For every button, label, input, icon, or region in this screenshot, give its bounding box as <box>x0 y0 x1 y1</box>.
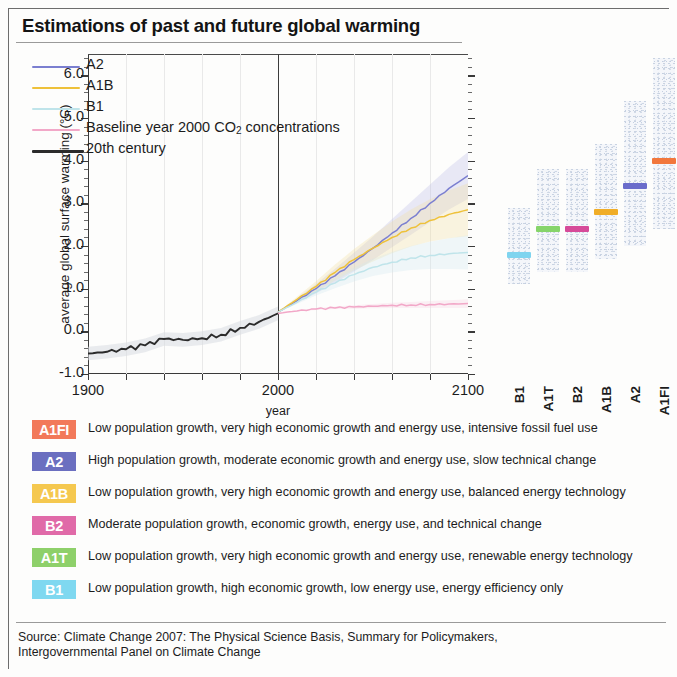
x-axis-title: year <box>266 404 290 418</box>
right-tick-minor <box>468 169 472 170</box>
scenario-bar: A1T <box>537 54 559 374</box>
scenario-badge: A1FI <box>32 420 76 439</box>
right-tick-minor <box>468 306 472 307</box>
scenario-description: Low population growth, very high economi… <box>88 549 633 563</box>
right-tick-minor <box>468 101 472 102</box>
y-tick-label: -1.0 <box>38 364 84 380</box>
scenario-description: Low population growth, very high economi… <box>88 485 626 499</box>
x-tick <box>278 374 279 380</box>
scenario-range <box>508 208 530 285</box>
page-border-top <box>8 8 669 9</box>
right-tick-minor <box>468 186 472 187</box>
x-tick <box>392 374 393 380</box>
right-tick <box>468 331 475 332</box>
scenario-row: A1BLow population growth, very high econ… <box>16 482 666 514</box>
scenario-bar: B2 <box>566 54 588 374</box>
legend-swatch <box>32 66 80 68</box>
legend-swatch <box>32 87 80 89</box>
right-tick-minor <box>468 255 472 256</box>
scenario-description: High population growth, moderate economi… <box>88 453 596 467</box>
scenario-row: A1TLow population growth, very high econ… <box>16 546 666 578</box>
scenario-bar: A2 <box>624 54 646 374</box>
scenario-descriptions: A1FILow population growth, very high eco… <box>16 418 666 610</box>
scenario-bar-panel: B1A1TB2A1BA2A1FI <box>506 54 677 374</box>
x-tick-label: 2000 <box>262 382 294 398</box>
right-tick-minor <box>468 58 472 59</box>
scenario-row: B2Moderate population growth, economic g… <box>16 514 666 546</box>
scenario-best-estimate <box>652 158 676 164</box>
right-tick-minor <box>468 195 472 196</box>
right-tick-minor <box>468 280 472 281</box>
scenario-bar-label: A2 <box>628 386 643 403</box>
scenario-badge: B2 <box>32 516 76 535</box>
plot-region: 6.05.04.03.02.01.00.0-1.0 190020002100 a… <box>88 54 468 374</box>
right-tick-minor <box>468 144 472 145</box>
right-tick-minor <box>468 263 472 264</box>
right-tick-minor <box>468 220 472 221</box>
x-tick <box>126 374 127 380</box>
scenario-bar-label: A1B <box>599 386 614 413</box>
scenario-range <box>624 101 646 246</box>
scenario-bar: B1 <box>508 54 530 374</box>
scenario-row: A2High population growth, moderate econo… <box>16 450 666 482</box>
right-tick-minor <box>468 152 472 153</box>
right-tick <box>468 75 475 76</box>
scenario-badge: A2 <box>32 452 76 471</box>
x-tick <box>240 374 241 380</box>
scenario-description: Low population growth, very high economi… <box>88 421 598 435</box>
right-tick-minor <box>468 67 472 68</box>
legend-swatch <box>32 129 80 131</box>
right-tick-minor <box>468 178 472 179</box>
scenario-range <box>653 58 675 229</box>
chart-area: 6.05.04.03.02.01.00.0-1.0 190020002100 a… <box>16 46 661 396</box>
x-tick <box>316 374 317 380</box>
legend-subscript: 2 <box>236 125 242 136</box>
scenario-bar-label: A1FI <box>657 386 672 415</box>
scenario-badge: B1 <box>32 580 76 599</box>
source-line-2: Intergovernmental Panel on Climate Chang… <box>18 645 498 660</box>
title-divider <box>16 42 462 43</box>
scenario-badge: A1T <box>32 548 76 567</box>
right-tick-minor <box>468 365 472 366</box>
scenario-description: Moderate population growth, economic gro… <box>88 517 542 531</box>
scenario-badge: A1B <box>32 484 76 503</box>
right-tick-minor <box>468 357 472 358</box>
source-note: Source: Climate Change 2007: The Physica… <box>18 630 498 660</box>
scenario-range <box>537 169 559 271</box>
source-line-1: Source: Climate Change 2007: The Physica… <box>18 630 498 645</box>
right-tick-minor <box>468 323 472 324</box>
right-tick-minor <box>468 109 472 110</box>
scenario-description: Low population growth, high economic gro… <box>88 581 563 595</box>
right-tick-minor <box>468 84 472 85</box>
scenario-row: A1FILow population growth, very high eco… <box>16 418 666 450</box>
source-divider <box>16 622 666 623</box>
scenario-bar: A1B <box>595 54 617 374</box>
legend-label: Baseline year 2000 CO2 concentrations <box>86 119 340 136</box>
scenario-row: B1Low population growth, high economic g… <box>16 578 666 610</box>
page-border-left <box>8 8 9 669</box>
right-tick-minor <box>468 340 472 341</box>
right-tick <box>468 118 475 119</box>
right-axis-ticks <box>468 54 480 374</box>
scenario-range <box>595 144 617 259</box>
right-tick <box>468 161 475 162</box>
x-tick <box>202 374 203 380</box>
right-tick-minor <box>468 297 472 298</box>
x-tick <box>430 374 431 380</box>
right-tick-minor <box>468 272 472 273</box>
right-tick <box>468 289 475 290</box>
right-tick-minor <box>468 212 472 213</box>
legend-label: A2 <box>86 56 104 72</box>
scenario-best-estimate <box>594 209 618 215</box>
page-title: Estimations of past and future global wa… <box>22 15 420 37</box>
legend-label: 20th century <box>86 140 166 156</box>
series-curves <box>88 54 468 374</box>
scenario-bar-label: A1T <box>541 386 556 412</box>
scenario-best-estimate <box>623 183 647 189</box>
right-tick <box>468 246 475 247</box>
scenario-best-estimate <box>565 226 589 232</box>
y-tick-label: 0.0 <box>38 321 84 337</box>
legend-label: A1B <box>86 77 113 93</box>
right-tick-minor <box>468 348 472 349</box>
legend-label: B1 <box>86 98 104 114</box>
